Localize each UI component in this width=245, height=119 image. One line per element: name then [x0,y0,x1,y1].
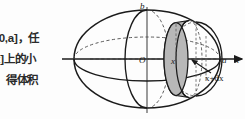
label-x-plus-dx: x+dx [205,74,224,83]
ellipsoid-svg [0,0,245,119]
ellipsoid-diagram: b O x a x x+dx [0,0,245,119]
label-origin: O [139,56,146,65]
label-x-axis: x [235,56,239,65]
label-b: b [140,2,145,11]
label-slice-x: x [171,57,175,66]
figure-page: [0,a]，任 x]上的小 ，得体积 [0,0,245,119]
label-a: a [222,56,227,65]
